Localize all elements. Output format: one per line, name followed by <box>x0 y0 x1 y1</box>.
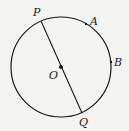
label-a: A <box>89 15 98 28</box>
label-o: O <box>49 69 58 82</box>
point-a <box>85 23 87 25</box>
circle-diagram: P A B O Q <box>0 0 129 131</box>
label-q: Q <box>79 116 88 129</box>
center-point-o <box>59 65 63 69</box>
point-b <box>110 61 112 63</box>
label-b: B <box>113 56 122 69</box>
label-p: P <box>32 6 41 19</box>
